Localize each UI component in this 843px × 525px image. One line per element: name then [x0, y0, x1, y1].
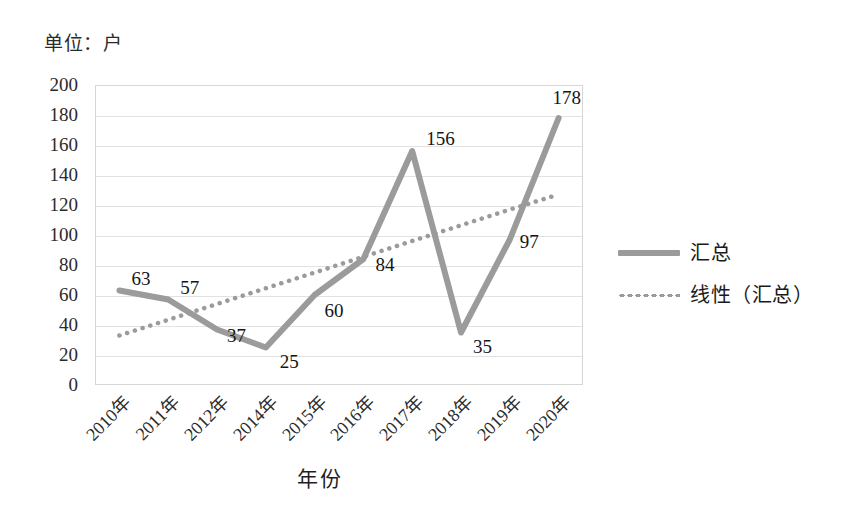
dotted-line-swatch [618, 287, 680, 303]
x-axis: 2010年2011年2012年2014年2015年2016年2017年2018年… [95, 385, 583, 465]
x-tick-label: 2011年 [129, 393, 183, 447]
y-tick-label: 160 [0, 135, 86, 154]
solid-line-swatch [618, 245, 680, 261]
data-label: 57 [180, 278, 199, 297]
data-label: 156 [426, 129, 455, 148]
legend-item-1[interactable]: 汇总 [618, 232, 838, 274]
x-tick-label: 2012年 [178, 393, 232, 447]
data-label: 178 [553, 88, 582, 107]
y-axis: 200180160140120100806040200 [0, 85, 86, 385]
y-tick-label: 140 [0, 165, 86, 184]
data-label: 97 [520, 232, 539, 251]
y-tick-label: 20 [0, 345, 86, 364]
legend-label: 汇总 [690, 243, 731, 263]
x-tick-label: 2016年 [324, 393, 378, 447]
x-tick-label: 2018年 [422, 393, 476, 447]
x-tick-label: 2019年 [471, 393, 525, 447]
data-label: 63 [131, 269, 150, 288]
y-tick-label: 80 [0, 255, 86, 274]
y-tick-label: 40 [0, 315, 86, 334]
x-tick-label: 2014年 [227, 393, 281, 447]
y-tick-label: 0 [0, 375, 86, 394]
data-label: 60 [325, 301, 344, 320]
y-tick-label: 200 [0, 75, 86, 94]
y-tick-label: 180 [0, 105, 86, 124]
y-tick-label: 120 [0, 195, 86, 214]
legend-item-2[interactable]: 线性（汇总） [618, 274, 838, 316]
data-label: 25 [280, 352, 299, 371]
x-tick-label: 2017年 [373, 393, 427, 447]
unit-caption: 单位：户 [44, 28, 122, 55]
series-layer [95, 85, 583, 385]
chart-legend: 汇总线性（汇总） [618, 232, 838, 316]
data-label: 35 [473, 337, 492, 356]
x-tick-label: 2020年 [520, 393, 574, 447]
x-axis-title: 年份 [250, 462, 390, 492]
y-tick-label: 100 [0, 225, 86, 244]
x-tick-label: 2015年 [276, 393, 330, 447]
y-tick-label: 60 [0, 285, 86, 304]
chart-figure: 单位：户 200180160140120100806040200 6357372… [0, 0, 843, 525]
x-tick-label: 2010年 [80, 393, 134, 447]
data-label: 37 [227, 326, 246, 345]
legend-label: 线性（汇总） [690, 285, 813, 305]
data-label: 84 [375, 255, 394, 274]
